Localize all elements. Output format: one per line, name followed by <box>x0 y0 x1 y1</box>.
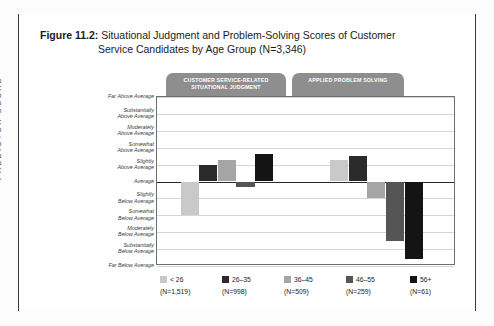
chart-legend: < 26(N=1,519)26–35(N=998)36–45(N=509)46–… <box>160 268 460 294</box>
legend-swatch <box>346 276 353 283</box>
legend-count: (N=61) <box>410 288 432 295</box>
y-axis-tick-label: SubstantiallyAbove Average <box>117 107 154 119</box>
legend-label: 46–55 <box>356 276 375 283</box>
y-axis-tick-label: Far Below Average <box>108 262 154 268</box>
legend-item[interactable]: 46–55(N=259) <box>346 268 375 295</box>
figure-number: Figure 11.2: <box>40 29 98 41</box>
y-axis-tick-label: Average <box>134 177 154 183</box>
tab-applied-problem-solving[interactable]: APPLIED PROBLEM SOLVING <box>292 73 404 96</box>
legend-label: 36–45 <box>294 276 313 283</box>
legend-count: (N=509) <box>284 288 313 295</box>
y-axis-tick-label: SomewhatAbove Average <box>117 140 154 152</box>
legend-count: (N=998) <box>222 288 251 295</box>
figure-title: Figure 11.2: Situational Judgment and Pr… <box>40 28 460 56</box>
legend-label: < 26 <box>170 276 183 283</box>
bar <box>181 182 199 216</box>
y-axis-tick-label: SlightlyBelow Average <box>118 191 154 203</box>
figure-title-line1: Situational Judgment and Problem-Solving… <box>101 29 395 41</box>
legend-swatch <box>160 276 167 283</box>
gridline <box>157 131 454 132</box>
y-axis-title: PREDICTOR SCORE <box>0 76 3 180</box>
bar <box>255 154 273 181</box>
legend-label: 56+ <box>420 276 432 283</box>
bar <box>405 182 423 260</box>
bar <box>236 182 254 187</box>
gridline <box>157 114 454 115</box>
y-axis-tick-label: SubstantiallyBelow Average <box>118 242 154 254</box>
plot-frame <box>156 96 455 265</box>
legend-item[interactable]: 56+(N=61) <box>410 268 432 295</box>
legend-count: (N=1,519) <box>160 288 190 295</box>
legend-label: 26–35 <box>232 276 251 283</box>
legend-swatch <box>284 276 291 283</box>
figure-page: Figure 11.2: Situational Judgment and Pr… <box>0 0 494 326</box>
bar <box>367 182 385 199</box>
tab-situational-judgment[interactable]: CUSTOMER SERVICE-RELATED SITUATIONAL JUD… <box>166 73 286 96</box>
plot-area <box>156 96 455 265</box>
figure-title-line2: Service Candidates by Age Group (N=3,346… <box>40 42 460 56</box>
y-axis-labels: Far Above AverageSubstantiallyAbove Aver… <box>74 96 154 265</box>
bar <box>349 156 367 181</box>
legend-count: (N=259) <box>346 288 375 295</box>
bar <box>330 160 348 182</box>
legend-item[interactable]: 26–35(N=998) <box>222 268 251 295</box>
y-axis-tick-label: SomewhatBelow Average <box>118 208 154 220</box>
legend-swatch <box>410 276 417 283</box>
y-axis-tick-label: ModeratelyBelow Average <box>118 225 154 237</box>
y-axis-tick-label: SlightlyAbove Average <box>117 157 154 169</box>
gridline <box>157 266 454 267</box>
bar <box>199 165 217 182</box>
y-axis-tick-label: ModeratelyAbove Average <box>117 124 154 136</box>
legend-item[interactable]: < 26(N=1,519) <box>160 268 190 295</box>
y-axis-tick-label: Far Above Average <box>108 93 154 99</box>
legend-swatch <box>222 276 229 283</box>
gridline <box>157 148 454 149</box>
gridline <box>157 97 454 98</box>
bar <box>386 182 404 241</box>
bar <box>218 160 236 182</box>
legend-item[interactable]: 36–45(N=509) <box>284 268 313 295</box>
